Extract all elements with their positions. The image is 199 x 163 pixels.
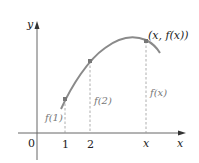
y-axis-arrow-icon <box>35 21 40 29</box>
origin-label: 0 <box>28 137 35 150</box>
tick-label-x: x <box>143 137 150 150</box>
x-axis-label: x <box>177 137 184 150</box>
point-label-x-fx: (x, f(x)) <box>148 29 189 42</box>
point-1 <box>63 97 67 101</box>
tick-label-1: 1 <box>62 138 69 151</box>
y-axis-label: y <box>26 18 34 31</box>
tick-label-2: 2 <box>87 138 94 151</box>
value-label-f1: f(1) <box>44 112 63 123</box>
x-axis-arrow-icon <box>178 131 186 136</box>
value-label-fx: f(x) <box>149 87 167 98</box>
value-label-f2: f(2) <box>93 95 112 106</box>
diagram-canvas: y x 0 1 2 x f(1) f(2) f(x) (x, f(x)) <box>0 0 199 163</box>
point-2 <box>88 59 92 63</box>
function-diagram: y x 0 1 2 x f(1) f(2) f(x) (x, f(x)) <box>0 0 199 163</box>
